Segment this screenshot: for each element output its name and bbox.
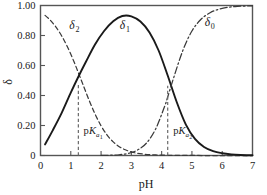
x-tick-label: 4 <box>159 160 165 171</box>
y-tick-label: 0.40 <box>17 90 35 101</box>
x-tick-label: 6 <box>220 160 225 171</box>
x-tick-label: 1 <box>68 160 73 171</box>
y-tick-label: 0.20 <box>17 120 35 131</box>
x-tick-label: 3 <box>129 160 134 171</box>
svg-text:1: 1 <box>100 134 103 140</box>
chart-canvas: 01234567 00.200.400.600.801.00 pKa1pKa2 … <box>0 0 267 195</box>
y-tick-label: 0.80 <box>17 30 35 41</box>
x-tick-label: 2 <box>98 160 103 171</box>
y-axis-title: δ <box>1 79 15 85</box>
svg-text:δ: δ <box>69 19 75 31</box>
y-tick-label: 0 <box>30 150 35 161</box>
svg-text:2: 2 <box>189 134 192 140</box>
svg-text:δ: δ <box>205 16 211 28</box>
x-axis-title: pH <box>139 177 154 191</box>
x-tick-label: 5 <box>189 160 194 171</box>
svg-text:1: 1 <box>126 25 130 34</box>
speciation-diagram: 01234567 00.200.400.600.801.00 pKa1pKa2 … <box>0 0 267 195</box>
y-tick-label: 1.00 <box>17 0 35 11</box>
svg-text:2: 2 <box>75 25 79 34</box>
svg-text:δ: δ <box>120 19 126 31</box>
x-tick-label: 0 <box>38 160 43 171</box>
x-tick-label: 7 <box>250 160 255 171</box>
y-tick-label: 0.60 <box>17 60 35 71</box>
svg-text:0: 0 <box>211 22 215 31</box>
